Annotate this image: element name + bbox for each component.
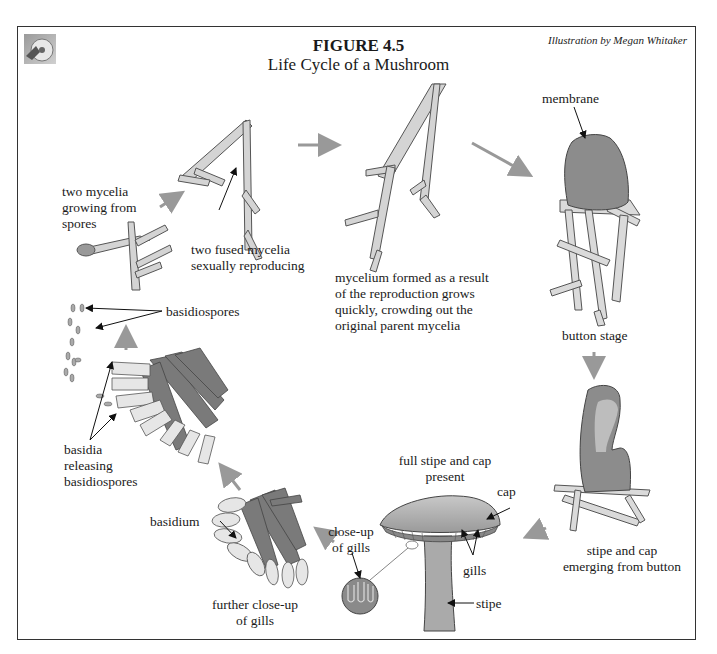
- label-line: full stipe and cap: [380, 453, 510, 469]
- label-membrane: membrane: [542, 91, 599, 107]
- label-mycelium-formed: mycelium formed as a result of the repro…: [335, 270, 489, 334]
- spore-mycelia-drawing: [77, 222, 172, 290]
- label-basidia-releasing: basidia releasing basidiospores: [64, 442, 138, 490]
- label-line: mycelium formed as a result: [335, 270, 489, 286]
- label-line: growing from: [62, 200, 137, 216]
- label-line: basidiospores: [64, 474, 138, 490]
- label-button-stage: button stage: [562, 328, 628, 344]
- label-line: two fused mycelia: [191, 242, 305, 258]
- gills-pointer-1: [462, 530, 473, 555]
- stipe-shape: [424, 536, 455, 631]
- label-line: spores: [62, 216, 137, 232]
- label-two-mycelia: two mycelia growing from spores: [62, 184, 137, 232]
- label-line: quickly, crowding out the: [335, 302, 489, 318]
- fused-mycelia-drawing: [178, 120, 262, 260]
- closeup-pointer: [352, 553, 360, 578]
- label-line: present: [380, 469, 510, 485]
- further-closeup-drawing: [211, 488, 308, 588]
- label-closeup-gills: close-up of gills: [320, 524, 382, 556]
- label-basidiospores: basidiospores: [166, 304, 240, 320]
- label-line: close-up: [320, 524, 382, 540]
- cycle-arrow-3: [472, 143, 528, 174]
- cycle-arrow-1: [160, 194, 180, 207]
- basidiospores-pointer-2: [96, 311, 162, 328]
- label-cap: cap: [497, 484, 516, 500]
- basidia-releasing-drawing: [64, 304, 228, 464]
- label-fused-mycelia: two fused mycelia sexually reproducing: [191, 242, 305, 274]
- label-further-closeup: further close-up of gills: [200, 597, 310, 629]
- label-line: further close-up: [200, 597, 310, 613]
- label-line: of the reproduction grows: [335, 286, 489, 302]
- label-line: of gills: [320, 540, 382, 556]
- label-gills: gills: [463, 563, 486, 579]
- label-line: sexually reproducing: [191, 258, 305, 274]
- label-basidium: basidium: [150, 514, 200, 530]
- label-line: original parent mycelia: [335, 318, 489, 334]
- fusion-pointer: [219, 168, 236, 210]
- membrane-pointer: [574, 107, 585, 138]
- cycle-arrow-5: [528, 528, 546, 536]
- cycle-arrow-7: [222, 467, 240, 490]
- label-line: releasing: [64, 458, 138, 474]
- emerging-stipe-cap-drawing: [554, 385, 650, 531]
- mycelium-drawing: [345, 84, 446, 272]
- label-stipe: stipe: [476, 596, 502, 612]
- label-line: of gills: [200, 613, 310, 629]
- label-line: basidia: [64, 442, 138, 458]
- label-line: stipe and cap: [552, 543, 692, 559]
- basidiospores-pointer-1: [86, 308, 162, 311]
- label-line: emerging from button: [552, 559, 692, 575]
- cap-shape: [380, 496, 500, 533]
- label-stipe-cap-emerging: stipe and cap emerging from button: [552, 543, 692, 575]
- button-stage-drawing: [550, 135, 640, 326]
- label-full-mushroom: full stipe and cap present: [380, 453, 510, 485]
- label-line: two mycelia: [62, 184, 137, 200]
